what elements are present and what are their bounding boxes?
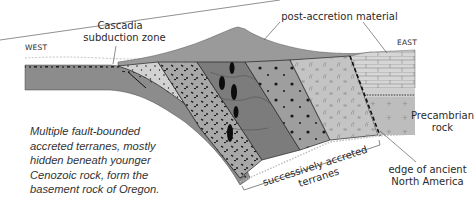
cascadia-label: Cascadia bbox=[90, 20, 150, 32]
post-accretion-label: post-accretion material bbox=[262, 11, 417, 23]
east-label: EAST bbox=[397, 39, 417, 48]
precambrian-label: Precambrian rock bbox=[410, 110, 475, 133]
edge-of-north-america-label: edge of ancient North America bbox=[380, 164, 475, 187]
subduction-zone-label: subduction zone bbox=[82, 32, 167, 44]
geologic-cross-section: // = + bbox=[0, 0, 475, 209]
west-label: WEST bbox=[25, 44, 47, 53]
figure-caption: Multiple fault-bounded accreted terranes… bbox=[30, 124, 159, 197]
